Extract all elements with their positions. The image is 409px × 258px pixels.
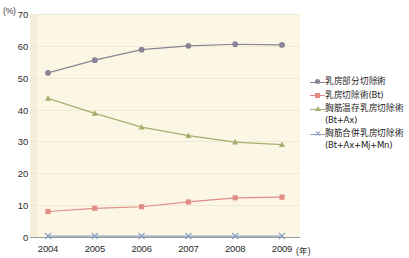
data-point-marker: [186, 199, 191, 204]
data-point-marker: [232, 41, 238, 47]
data-point-marker: [279, 42, 285, 48]
data-point-marker: [45, 70, 51, 76]
data-point-marker: [45, 209, 50, 214]
line-chart: (%) 010203040506070 20042005200620072008…: [0, 0, 409, 258]
legend-label: 胸筋温存乳房切除術(Bt+Ax): [325, 103, 403, 126]
legend-marker-square-icon: [310, 91, 325, 101]
data-point-marker: [233, 195, 238, 200]
legend-label: 胸筋合併乳房切除術(Bt+Ax+Mj+Mn): [325, 128, 403, 151]
legend-item[interactable]: 胸筋温存乳房切除術(Bt+Ax): [310, 103, 409, 126]
legend-label: 乳房切除術(Bt): [325, 90, 383, 102]
series-line: [48, 98, 282, 144]
legend-label-sub: (Bt+Ax): [325, 115, 403, 127]
legend-label-sub: (Bt+Ax+Mj+Mn): [325, 140, 403, 152]
legend-label-main: 胸筋合併乳房切除術: [325, 128, 403, 138]
legend-label-main: 乳房切除術(Bt): [325, 90, 383, 100]
data-point-marker: [186, 43, 192, 49]
data-point-marker: [279, 195, 284, 200]
legend-label-main: 乳房部分切除術: [325, 76, 386, 86]
data-point-marker: [92, 206, 97, 211]
data-point-marker: [139, 204, 144, 209]
data-point-marker: [139, 47, 145, 53]
legend-item[interactable]: 乳房切除術(Bt): [310, 90, 409, 102]
series-group: [45, 95, 285, 147]
data-point-marker: [92, 57, 98, 63]
legend-marker-triangle-icon: [310, 104, 325, 114]
legend-label-main: 胸筋温存乳房切除術: [325, 103, 403, 113]
chart-legend: 乳房部分切除術乳房切除術(Bt)胸筋温存乳房切除術(Bt+Ax)胸筋合併乳房切除…: [310, 76, 409, 153]
series-group: [45, 41, 285, 75]
legend-item[interactable]: 乳房部分切除術: [310, 76, 409, 88]
data-point-marker: [45, 95, 51, 101]
legend-marker-circle-icon: [310, 77, 325, 87]
legend-label: 乳房部分切除術: [325, 76, 386, 88]
legend-marker-cross-icon: [310, 129, 325, 139]
series-line: [48, 44, 282, 73]
series-group: [45, 233, 285, 239]
series-group: [45, 195, 284, 215]
series-line: [48, 197, 282, 211]
legend-item[interactable]: 胸筋合併乳房切除術(Bt+Ax+Mj+Mn): [310, 128, 409, 151]
